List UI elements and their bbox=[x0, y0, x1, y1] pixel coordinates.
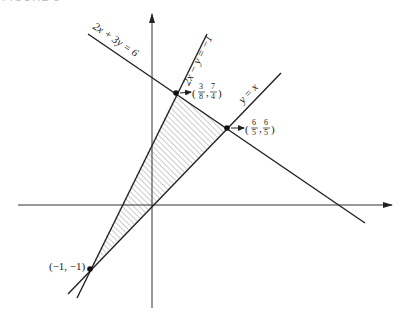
point-neg1-neg1 bbox=[87, 266, 93, 272]
label-line2: 2x − y = −1 bbox=[180, 33, 214, 87]
svg-text:,: , bbox=[259, 122, 262, 134]
svg-text:8: 8 bbox=[199, 92, 203, 101]
svg-text:(: ( bbox=[192, 87, 196, 100]
svg-text:3: 3 bbox=[199, 82, 203, 91]
label-line3: y = x bbox=[235, 81, 260, 106]
svg-text:): ) bbox=[271, 123, 275, 136]
svg-text:,: , bbox=[206, 86, 209, 98]
svg-text:(: ( bbox=[245, 123, 249, 136]
svg-text:5: 5 bbox=[264, 128, 268, 137]
svg-text:): ) bbox=[218, 87, 222, 100]
svg-text:6: 6 bbox=[264, 118, 268, 127]
svg-text:5: 5 bbox=[252, 128, 256, 137]
feasible-region bbox=[90, 93, 227, 269]
point-label-3-8-7-4: ( 3 8 , 7 4 ) bbox=[192, 82, 222, 101]
svg-text:7: 7 bbox=[211, 82, 215, 91]
svg-text:4: 4 bbox=[211, 92, 215, 101]
pointer-arrow-1 bbox=[180, 92, 191, 93]
diagram: 2x + 3y = 6 2x − y = −1 y = x ( 3 8 , 7 … bbox=[0, 0, 403, 321]
point-3-8-7-4 bbox=[173, 90, 179, 96]
point-6-5-6-5 bbox=[224, 125, 230, 131]
svg-text:6: 6 bbox=[252, 118, 256, 127]
point-label-neg1-neg1: (−1, −1) bbox=[49, 260, 86, 273]
point-label-6-5-6-5: ( 6 5 , 6 5 ) bbox=[245, 118, 275, 137]
